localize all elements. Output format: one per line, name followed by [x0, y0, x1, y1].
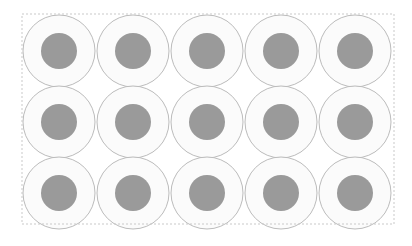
circle-cell	[319, 86, 391, 158]
inner-disc-circle	[263, 104, 299, 140]
inner-disc-circle	[337, 33, 373, 69]
inner-disc-circle	[189, 175, 225, 211]
circle-cell	[245, 15, 317, 87]
circle-cell	[171, 157, 243, 229]
inner-disc-circle	[263, 175, 299, 211]
figure-root	[0, 0, 412, 246]
circle-cell	[97, 15, 169, 87]
circle-cell	[245, 157, 317, 229]
inner-disc-circle	[189, 104, 225, 140]
inner-disc-circle	[189, 33, 225, 69]
circle-cell	[23, 15, 95, 87]
inner-disc-circle	[115, 175, 151, 211]
circles-layer	[23, 15, 391, 229]
circle-cell	[97, 157, 169, 229]
circle-cell	[97, 86, 169, 158]
inner-disc-circle	[115, 33, 151, 69]
circle-cell	[319, 157, 391, 229]
inner-disc-circle	[41, 104, 77, 140]
inner-disc-circle	[263, 33, 299, 69]
inner-disc-circle	[115, 104, 151, 140]
circle-cell	[245, 86, 317, 158]
circle-cell	[171, 86, 243, 158]
inner-disc-circle	[337, 104, 373, 140]
circle-grid-figure	[0, 0, 412, 246]
circle-cell	[319, 15, 391, 87]
circle-cell	[23, 157, 95, 229]
inner-disc-circle	[41, 33, 77, 69]
circle-cell	[171, 15, 243, 87]
inner-disc-circle	[41, 175, 77, 211]
inner-disc-circle	[337, 175, 373, 211]
circle-cell	[23, 86, 95, 158]
